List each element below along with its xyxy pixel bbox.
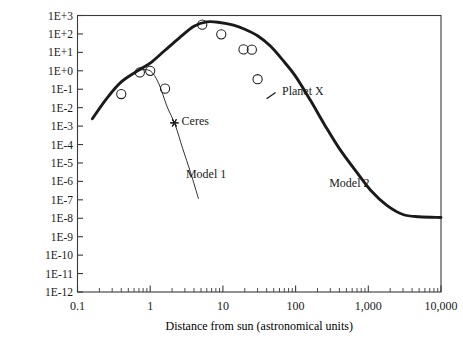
- series-curve-model-2: [92, 22, 441, 218]
- marker-planet-x-cross: [267, 92, 276, 98]
- data-series: [92, 22, 441, 218]
- axis-frame: [78, 16, 442, 293]
- chart-figure: Mass (units of earth's mass) Distance fr…: [0, 0, 463, 342]
- axis-ticks: [78, 16, 442, 293]
- series-curve-model-1: [139, 70, 198, 199]
- special-markers: [170, 92, 275, 126]
- cross-stroke: [267, 92, 276, 98]
- plot-canvas: [0, 0, 463, 342]
- data-points: [117, 20, 263, 99]
- data-point-circle: [217, 30, 226, 39]
- data-point-circle: [253, 75, 262, 84]
- data-point-circle: [160, 84, 169, 93]
- plot-border: [78, 16, 442, 293]
- marker-ceres-asterisk: [170, 119, 178, 126]
- data-point-circle: [117, 89, 126, 98]
